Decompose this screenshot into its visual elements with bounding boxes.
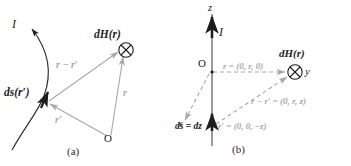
- origin-label-a: O: [104, 133, 112, 144]
- panel-a-caption: (a): [67, 145, 79, 157]
- figure-root: I ds(r′) dH(r) r − r′ r r′ O (a): [0, 0, 351, 166]
- separation-vector-label-a: r − r′: [56, 60, 78, 70]
- panel-a: I ds(r′) dH(r) r − r′ r r′ O (a): [0, 0, 175, 166]
- origin-dot-b: [210, 70, 213, 73]
- source-position-label-b: r′ = (0, 0, −z): [218, 122, 267, 131]
- x-axis-arrow: [185, 74, 209, 120]
- field-marker-circle-b: [288, 65, 302, 79]
- field-position-vector-arrow: [111, 57, 123, 135]
- panel-a-vectors: [0, 0, 175, 166]
- field-position-label-b: r = (0, r, 0): [223, 62, 263, 71]
- y-axis-label: y: [305, 67, 310, 78]
- origin-label-b: O: [198, 58, 206, 69]
- separation-vector-label-b: r − r′ = (0, r, z): [251, 97, 306, 106]
- field-point-label-a: dH(r): [94, 29, 121, 41]
- panel-b-caption: (b): [232, 143, 245, 155]
- field-position-label-a: r: [123, 88, 127, 98]
- source-element-label-a: ds(r′): [4, 87, 30, 99]
- z-axis-label: z: [208, 3, 212, 14]
- source-position-label-a: r′: [55, 115, 62, 125]
- panel-b-vectors: [175, 0, 351, 166]
- source-element-label-b: ds = dz: [175, 122, 202, 132]
- current-label-a: I: [12, 18, 16, 30]
- field-marker-circle-a: [119, 43, 133, 57]
- panel-b: z I x y O dH(r) r = (0, r, 0) r − r′ = (…: [175, 0, 351, 166]
- field-point-label-b: dH(r): [279, 48, 305, 59]
- current-label-b: I: [219, 26, 223, 38]
